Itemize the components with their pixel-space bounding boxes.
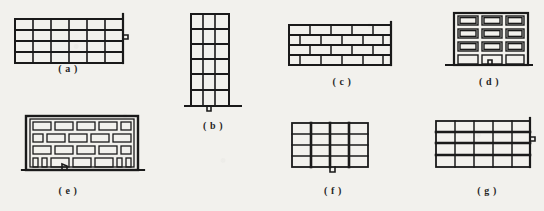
- figure-f-drawing: [290, 120, 376, 176]
- caption-b: ( b ): [203, 120, 223, 131]
- figure-d: [444, 10, 534, 70]
- caption-a: ( a ): [58, 63, 78, 74]
- caption-f: ( f ): [324, 185, 342, 196]
- figure-a-drawing: [14, 14, 134, 66]
- figure-g-drawing: [434, 118, 540, 174]
- figure-f: [290, 120, 376, 176]
- figure-b-drawing: [185, 12, 245, 116]
- caption-c: ( c ): [332, 76, 351, 87]
- figure-c: [288, 22, 398, 70]
- caption-g: ( g ): [477, 185, 497, 196]
- figure-sheet: ( a ) ( b ): [0, 0, 544, 211]
- figure-c-drawing: [288, 22, 398, 70]
- figure-b: [185, 12, 245, 116]
- caption-d: ( d ): [479, 76, 499, 87]
- figure-g: [434, 118, 540, 174]
- figure-a: [14, 14, 134, 66]
- figure-e-drawing: [22, 114, 146, 178]
- figure-e: [22, 114, 146, 178]
- caption-e: ( e ): [58, 185, 77, 196]
- figure-d-drawing: [444, 10, 534, 70]
